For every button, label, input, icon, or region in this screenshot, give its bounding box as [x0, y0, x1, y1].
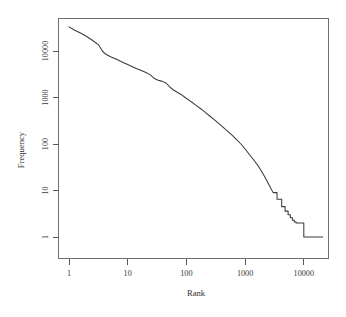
- y-axis-title: Frequency: [16, 131, 26, 168]
- x-tick-label-100: 100: [180, 269, 192, 278]
- data-series-rank-frequency: [69, 27, 323, 237]
- y-axis-ticks: 110100100010000: [41, 41, 59, 239]
- x-axis-title: Rank: [187, 288, 206, 298]
- y-tick-label-100: 100: [41, 138, 50, 150]
- y-tick-label-1000: 1000: [41, 89, 50, 105]
- x-axis-ticks: 110100100010000: [67, 259, 314, 279]
- chart-figure: 110100100010000 110100100010000 Rank Fre…: [0, 0, 346, 317]
- y-tick-label-1: 1: [41, 235, 50, 239]
- y-tick-label-10000: 10000: [41, 41, 50, 61]
- y-tick-label-10: 10: [41, 186, 50, 194]
- x-tick-label-10: 10: [124, 269, 132, 278]
- rank-frequency-log-log-plot: 110100100010000 110100100010000 Rank Fre…: [0, 0, 346, 317]
- x-tick-label-1000: 1000: [237, 269, 253, 278]
- x-tick-label-1: 1: [67, 269, 71, 278]
- x-tick-label-10000: 10000: [294, 269, 314, 278]
- plot-frame: [59, 19, 329, 259]
